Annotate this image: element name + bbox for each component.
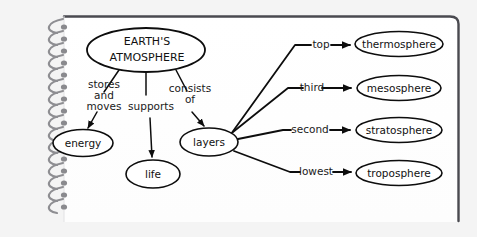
link-label-consists-line2: of (185, 93, 195, 105)
node-thermosphere-label: thermosphere (362, 38, 436, 50)
node-life-label: life (145, 168, 161, 180)
link-label-lowest-text: lowest (299, 165, 333, 177)
node-earths-atmosphere-label-line1: EARTH'S (124, 35, 170, 48)
node-thermosphere[interactable]: thermosphere (355, 32, 443, 57)
node-energy-label: energy (65, 137, 102, 149)
node-earths-atmosphere[interactable]: EARTH'S ATMOSPHERE (87, 28, 205, 72)
node-energy[interactable]: energy (53, 130, 113, 157)
link-label-lowest: lowest (299, 165, 333, 177)
node-mesosphere-label: mesosphere (367, 82, 431, 94)
node-layers[interactable]: layers (180, 128, 238, 156)
link-label-second-text: second (291, 123, 328, 135)
notebook-page-scene: stores and moves supports consists of to… (0, 0, 477, 237)
link-label-second: second (291, 123, 328, 135)
link-label-top-text: top (312, 38, 330, 50)
link-label-supports: supports (128, 100, 174, 112)
node-stratosphere-label: stratosphere (366, 124, 433, 136)
node-stratosphere[interactable]: stratosphere (356, 118, 442, 143)
node-troposphere[interactable]: troposphere (356, 161, 442, 186)
link-label-stores-line3: moves (87, 100, 122, 112)
node-earths-atmosphere-label-line2: ATMOSPHERE (110, 51, 185, 64)
node-life[interactable]: life (126, 160, 180, 188)
node-layers-label: layers (193, 136, 225, 148)
node-mesosphere[interactable]: mesosphere (357, 76, 441, 101)
concept-map-canvas: stores and moves supports consists of to… (0, 0, 477, 237)
link-label-third: third (300, 81, 325, 93)
link-label-top: top (312, 38, 330, 50)
link-label-third-text: third (300, 81, 325, 93)
link-label-supports-text: supports (128, 100, 174, 112)
spiral-coils (49, 19, 63, 213)
node-troposphere-label: troposphere (367, 167, 431, 179)
